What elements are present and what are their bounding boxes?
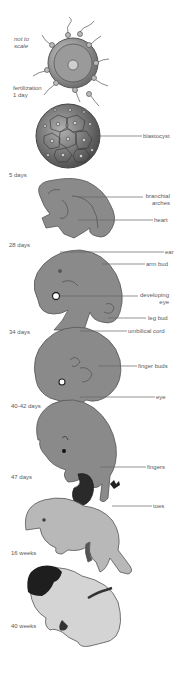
stage-label-28-days: 28 days [9,242,30,249]
stage-label-fertilization: fertilization 1 day [13,85,42,99]
not-to-scale-note: not to scale [14,36,29,50]
stage-label-5-days: 5 days [9,172,27,179]
development-illustration [0,0,178,677]
callout-arm-bud: arm bud [146,261,168,268]
callout-fingers: fingers [147,464,165,471]
embryo-28-days-icon [39,178,115,238]
embryo-40-42-days-icon [34,327,121,412]
baby-40-weeks-icon [27,566,120,647]
stage-label-34-days: 34 days [9,329,30,336]
stage-label-16-weeks: 16 weeks [11,550,36,557]
callout-blastocyst: blastocyst [143,133,170,140]
stage-label-40-weeks: 40 weeks [11,623,36,630]
blastocyst-icon [36,104,100,168]
callout-eye: eye [156,394,166,401]
callout-umbilical-cord: umbilical cord [128,328,165,335]
callout-ear: ear [165,249,174,256]
fetus-16-weeks-icon [25,498,131,574]
callout-toes: toes [153,503,164,510]
stage-label-40-42-days: 40-42 days [11,403,41,410]
callout-heart: heart [154,217,168,224]
callout-leg-bud: leg bud [148,315,168,322]
callout-branchial-arches: branchial arches [144,193,170,207]
callout-developing-eye: developing eye [139,292,169,306]
callout-finger-buds: finger buds [138,363,168,370]
embryo-47-days-icon [37,400,120,506]
stage-label-47-days: 47 days [11,474,32,481]
